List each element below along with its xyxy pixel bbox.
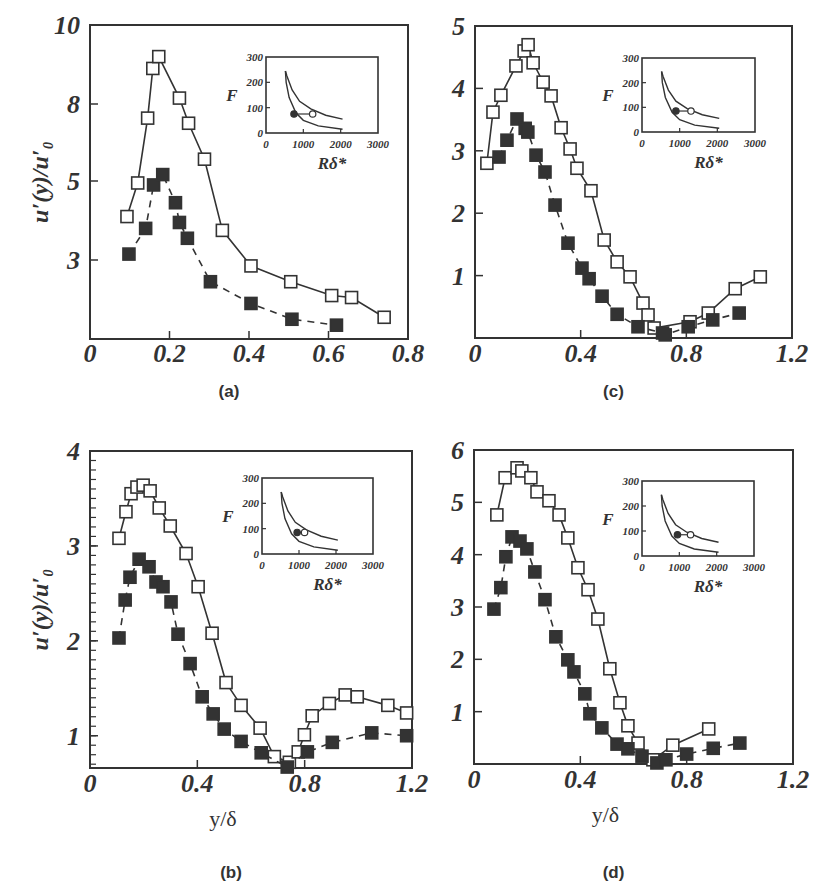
inset-y-tick-label: 0 xyxy=(254,548,260,560)
inset-x-label: Rδ* xyxy=(317,154,347,173)
filled-square-marker xyxy=(245,297,257,309)
open-square-marker xyxy=(543,495,555,507)
open-square-marker xyxy=(339,689,351,701)
filled-square-marker xyxy=(632,321,644,333)
y-axis: 1234 xyxy=(66,437,98,764)
filled-square-marker xyxy=(401,730,413,742)
open-square-marker xyxy=(153,502,165,514)
open-square-marker xyxy=(582,584,594,596)
panel-caption: (d) xyxy=(603,863,625,882)
open-square-marker xyxy=(622,720,634,732)
panel-caption: (a) xyxy=(219,382,240,401)
open-square-marker xyxy=(553,509,565,521)
x-tick-label: 0.4 xyxy=(233,339,266,368)
open-square-marker xyxy=(147,62,159,74)
filled-square-marker xyxy=(707,314,719,326)
inset-x-tick-label: 1000 xyxy=(668,561,691,573)
filled-square-marker xyxy=(539,594,551,606)
filled-square-marker xyxy=(124,571,136,583)
open-square-marker xyxy=(268,751,280,763)
y-tick-label: 3 xyxy=(450,593,464,622)
y-tick-label: 5 xyxy=(452,12,465,41)
inset-y-tick-label: 200 xyxy=(622,500,640,512)
filled-square-marker xyxy=(235,735,247,747)
open-square-marker xyxy=(585,185,597,197)
open-square-marker xyxy=(285,276,297,288)
filled-square-marker xyxy=(622,743,634,755)
y-tick-label: 3 xyxy=(66,532,80,561)
filled-square-marker xyxy=(579,688,591,700)
filled-square-marker xyxy=(286,313,298,325)
inset-stability-diagram: 01000200030000100200300FRδ* xyxy=(601,475,765,596)
y-tick-label: 8 xyxy=(67,90,80,119)
inset-x-tick-label: 0 xyxy=(259,559,265,571)
filled-square-marker xyxy=(681,748,693,760)
filled-square-marker xyxy=(172,628,184,640)
filled-square-marker xyxy=(169,197,181,209)
filled-square-marker xyxy=(568,666,580,678)
open-square-marker xyxy=(604,663,616,675)
y-tick-label: 3 xyxy=(66,246,80,275)
inset-y-label: F xyxy=(225,86,238,105)
inset-x-tick-label: 1000 xyxy=(288,559,311,571)
filled-square-marker xyxy=(326,736,338,748)
open-square-marker xyxy=(537,76,549,88)
filled-square-marker xyxy=(173,216,185,228)
inset-x-tick-label: 2000 xyxy=(705,561,729,573)
inset-y-tick-label: 0 xyxy=(258,127,264,139)
filled-square-marker xyxy=(529,566,541,578)
open-square-marker xyxy=(525,472,537,484)
figure: 00.20.40.60.810853u′(y)/u′₀(a)0100020003… xyxy=(0,0,821,891)
inset-x-tick-label: 0 xyxy=(263,138,269,150)
x-tick-label: 0 xyxy=(469,339,482,368)
filled-circle-marker xyxy=(291,111,297,117)
y-tick-label: 1 xyxy=(451,698,464,727)
filled-square-marker xyxy=(181,232,193,244)
open-square-marker xyxy=(132,177,144,189)
open-circle-marker xyxy=(688,108,694,114)
open-square-marker xyxy=(298,729,310,741)
inset-y-tick-label: 100 xyxy=(623,525,640,537)
filled-square-marker xyxy=(562,654,574,666)
open-square-marker xyxy=(571,162,583,174)
x-axis: 00.40.81.2 xyxy=(84,760,429,798)
y-tick-label: 4 xyxy=(451,74,465,103)
inset-x-tick-label: 1000 xyxy=(292,138,315,150)
open-square-marker xyxy=(173,92,185,104)
inset-y-tick-label: 100 xyxy=(623,101,640,113)
inset-y-tick-label: 100 xyxy=(243,523,260,535)
x-axis: 00.20.40.60.8 xyxy=(84,331,425,368)
x-tick-label: 0.2 xyxy=(153,339,186,368)
open-square-marker xyxy=(192,581,204,593)
panel-c: 00.40.81.212345(c)0100020003000010020030… xyxy=(451,12,808,401)
y-tick-label: 6 xyxy=(451,436,464,465)
filled-square-marker xyxy=(659,329,671,341)
inset-x-label: Rδ* xyxy=(693,577,723,596)
x-tick-label: 0.8 xyxy=(670,339,703,368)
y-tick-label: 2 xyxy=(451,199,465,228)
open-square-marker xyxy=(235,699,247,711)
inset-y-tick-label: 200 xyxy=(622,77,640,89)
x-tick-label: 0.4 xyxy=(181,769,214,798)
filled-square-marker xyxy=(495,582,507,594)
open-square-marker xyxy=(346,292,358,304)
filled-square-marker xyxy=(549,199,561,211)
x-tick-label: 0 xyxy=(468,765,481,794)
inset-y-tick-label: 100 xyxy=(247,102,264,114)
open-square-marker xyxy=(323,697,335,709)
filled-square-marker xyxy=(119,594,131,606)
open-square-marker xyxy=(703,723,715,735)
open-square-marker xyxy=(245,260,257,272)
filled-square-marker xyxy=(660,754,672,766)
open-circle-marker xyxy=(309,111,315,117)
open-square-marker xyxy=(637,297,649,309)
inset-y-tick-label: 300 xyxy=(246,51,264,63)
open-square-marker xyxy=(611,256,623,268)
y-axis: 12345 xyxy=(451,12,483,291)
x-tick-label: 0 xyxy=(84,769,97,798)
y-axis: 10853 xyxy=(54,11,98,275)
x-tick-label: 0.8 xyxy=(670,765,703,794)
y-tick-label: 1 xyxy=(67,722,80,751)
x-tick-label: 0.4 xyxy=(564,765,597,794)
filled-square-marker xyxy=(140,222,152,234)
